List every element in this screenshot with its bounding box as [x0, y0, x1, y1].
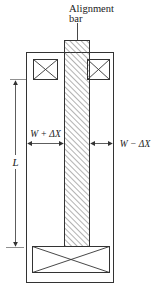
bottom-coil-icon: [33, 247, 110, 273]
left-gap-label: W + ΔX: [30, 129, 62, 139]
alignment-bar-diagram: L W + ΔX W − ΔX Alignment bar: [0, 0, 157, 285]
right-gap-dimension: W − ΔX: [91, 139, 151, 149]
length-dimension: L: [6, 80, 26, 248]
alignment-bar: [65, 41, 90, 247]
left-gap-dimension: W + ΔX: [28, 129, 63, 144]
length-label: L: [11, 156, 18, 168]
top-left-coil-icon: [34, 60, 58, 80]
right-gap-label: W − ΔX: [120, 139, 152, 149]
alignment-label-line2: bar: [69, 13, 83, 24]
top-right-coil-icon: [88, 60, 110, 80]
